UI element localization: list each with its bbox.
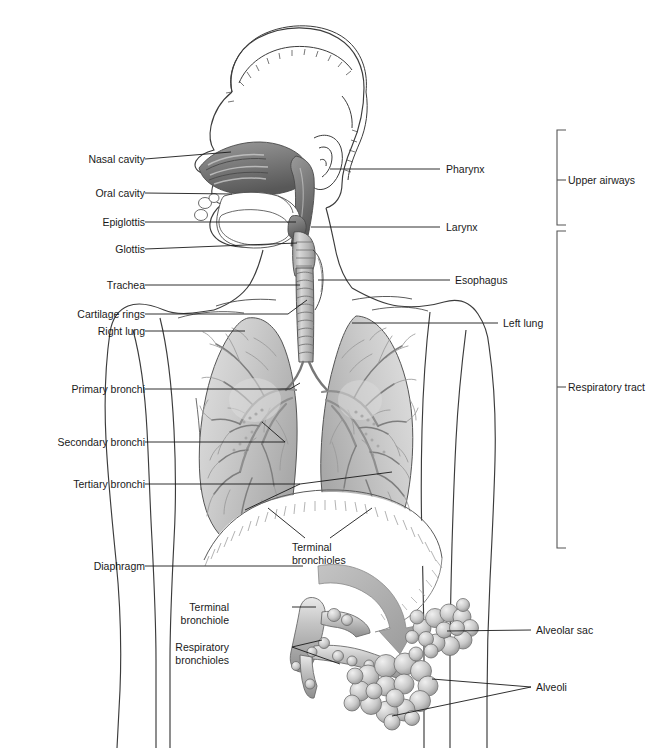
respiratory-system-figure: Nasal cavity Oral cavity Epiglottis Glot… bbox=[0, 0, 670, 750]
label-tertiary-bronchi: Tertiary bronchi bbox=[0, 478, 148, 491]
bracket-respiratory-tract bbox=[557, 231, 566, 548]
label-diaphragm: Diaphragm bbox=[0, 560, 148, 573]
label-right-lung: Right lung bbox=[0, 325, 147, 338]
label-alveolar-sac: Alveolar sac bbox=[536, 624, 593, 637]
oral-cavity bbox=[217, 192, 300, 248]
label-epiglottis: Epiglottis bbox=[0, 216, 148, 229]
label-trachea: Trachea bbox=[0, 279, 147, 292]
anatomy-illustration bbox=[0, 0, 670, 750]
label-pharynx: Pharynx bbox=[446, 163, 485, 176]
label-primary-bronchi: Primary bronchi bbox=[0, 383, 148, 396]
label-larynx: Larynx bbox=[446, 221, 478, 234]
label-glottis: Glottis bbox=[0, 243, 148, 256]
label-alveoli: Alveoli bbox=[536, 681, 567, 694]
label-respiratory-tract: Respiratory tract bbox=[568, 381, 645, 394]
label-oral-cavity: Oral cavity bbox=[0, 187, 148, 200]
label-terminal-bronchiole: Terminal bronchiole bbox=[129, 601, 229, 626]
label-left-lung: Left lung bbox=[503, 317, 543, 330]
ear bbox=[310, 135, 342, 189]
trachea bbox=[296, 268, 314, 362]
label-terminal-bronchioles: Terminal bronchioles bbox=[292, 541, 346, 566]
label-secondary-bronchi: Secondary bronchi bbox=[0, 436, 148, 449]
label-nasal-cavity: Nasal cavity bbox=[0, 153, 148, 166]
bracket-upper-airways bbox=[557, 130, 566, 225]
teeth bbox=[195, 194, 220, 221]
label-cartilage-rings: Cartilage rings bbox=[0, 308, 148, 321]
label-esophagus: Esophagus bbox=[455, 274, 508, 287]
label-respiratory-bronchioles: Respiratory bronchioles bbox=[129, 641, 229, 666]
label-upper-airways: Upper airways bbox=[568, 174, 635, 187]
